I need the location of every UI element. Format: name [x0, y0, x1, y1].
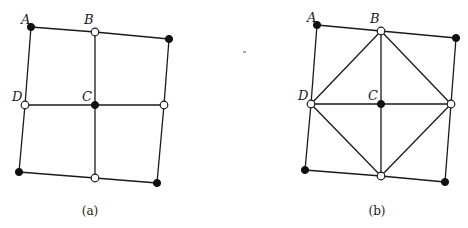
- node-C-filled: [377, 100, 384, 107]
- node-R-open: [447, 100, 455, 108]
- edge-D-BM: [311, 104, 381, 176]
- node-C-filled: [91, 101, 98, 108]
- vertex-label-C: C: [368, 88, 378, 103]
- node-R-open: [160, 101, 168, 109]
- edge-TR-R: [451, 38, 456, 104]
- vertex-label-A: A: [20, 12, 30, 27]
- node-BL-filled: [301, 166, 308, 173]
- node-B-open: [377, 27, 385, 35]
- node-TR-filled: [452, 34, 459, 41]
- edge-A-D: [25, 27, 31, 105]
- vertex-label-B: B: [369, 11, 380, 26]
- panel-a-labels: ABDC: [11, 12, 94, 104]
- node-BM-open: [91, 174, 99, 182]
- mesh-diagram: ABDC (a) ABDC (b): [0, 0, 468, 228]
- edge-A-B: [31, 27, 95, 32]
- edge-BL-BM: [19, 172, 95, 178]
- edge-TR-R: [164, 39, 169, 105]
- panel-a-quad-mesh: ABDC (a): [11, 12, 173, 218]
- edge-B-TR: [95, 32, 169, 39]
- edge-R-BR: [445, 104, 451, 182]
- edge-R-BR: [157, 105, 164, 183]
- edge-A-D: [311, 25, 317, 104]
- edge-BM-BR: [381, 176, 445, 182]
- edge-R-BM: [381, 104, 451, 176]
- node-BR-filled: [153, 179, 160, 186]
- edge-BL-BM: [305, 170, 381, 176]
- vertex-label-A: A: [306, 10, 316, 25]
- node-BM-open: [377, 172, 385, 180]
- node-B-open: [91, 28, 99, 36]
- node-BL-filled: [15, 168, 22, 175]
- edge-B-TR: [381, 31, 456, 38]
- panel-b-caption: (b): [368, 204, 385, 218]
- edge-D-BL: [305, 104, 311, 170]
- edge-BM-BR: [95, 178, 157, 183]
- vertex-label-D: D: [11, 89, 23, 104]
- node-BR-filled: [441, 178, 448, 185]
- edge-B-R: [381, 31, 451, 104]
- panel-a-caption: (a): [82, 204, 99, 218]
- edge-D-BL: [19, 105, 25, 172]
- panel-b-triangulated-mesh: ABDC (b): [297, 10, 460, 218]
- vertex-label-D: D: [297, 88, 309, 103]
- vertex-label-C: C: [82, 89, 92, 104]
- vertex-label-B: B: [83, 12, 94, 27]
- panel-b-labels: ABDC: [297, 10, 380, 103]
- node-TR-filled: [165, 35, 172, 42]
